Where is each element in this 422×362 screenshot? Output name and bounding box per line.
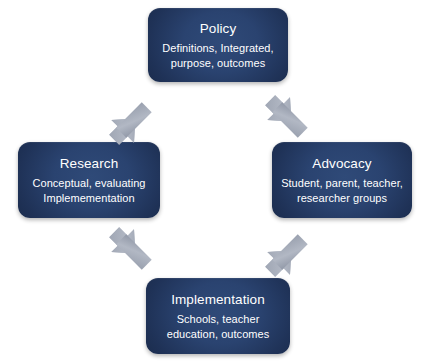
node-implementation[interactable]: Implementation Schools, teacher educatio… bbox=[146, 278, 290, 354]
node-policy-description-line-1: Definitions, Integrated, bbox=[162, 41, 273, 56]
diagram-canvas: Policy Definitions, Integrated, purpose,… bbox=[0, 0, 422, 362]
node-implementation-description-line-1: Schools, teacher bbox=[167, 312, 269, 327]
node-advocacy-title: Advocacy bbox=[312, 155, 371, 172]
node-research-title: Research bbox=[60, 155, 119, 172]
node-research-description-line-2: Implemementation bbox=[32, 191, 145, 206]
node-implementation-description-line-2: education, outcomes bbox=[167, 327, 269, 342]
arrow-research-implementation-icon bbox=[96, 216, 172, 288]
arrow-advocacy-implementation-icon bbox=[252, 216, 328, 288]
arrow-policy-research-icon bbox=[96, 84, 172, 156]
node-policy-description: Definitions, Integrated, purpose, outcom… bbox=[162, 41, 273, 70]
node-policy[interactable]: Policy Definitions, Integrated, purpose,… bbox=[148, 8, 288, 82]
node-policy-description-line-2: purpose, outcomes bbox=[162, 56, 273, 71]
node-advocacy-description-line-1: Student, parent, teacher, bbox=[281, 176, 403, 191]
node-advocacy-description: Student, parent, teacher, researcher gro… bbox=[281, 176, 403, 205]
node-research-description: Conceptual, evaluating Implemementation bbox=[32, 176, 145, 205]
node-advocacy-description-line-2: researcher groups bbox=[281, 191, 403, 206]
node-implementation-title: Implementation bbox=[171, 291, 265, 308]
node-policy-title: Policy bbox=[200, 20, 237, 37]
node-implementation-description: Schools, teacher education, outcomes bbox=[167, 312, 269, 341]
node-research-description-line-1: Conceptual, evaluating bbox=[32, 176, 145, 191]
arrow-policy-advocacy-icon bbox=[252, 84, 328, 156]
